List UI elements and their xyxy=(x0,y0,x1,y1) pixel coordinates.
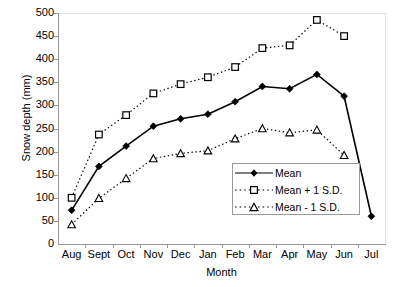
data-point-marker xyxy=(313,126,321,133)
data-point-marker xyxy=(68,195,75,202)
legend-label-mean-minus-sd: Mean - 1 S.D. xyxy=(275,202,340,213)
data-point-marker xyxy=(340,151,348,158)
data-point-marker xyxy=(177,81,184,88)
data-point-marker xyxy=(204,111,211,118)
data-point-marker xyxy=(259,125,267,132)
legend-key-mean xyxy=(233,165,275,181)
legend-item-mean: Mean xyxy=(233,165,359,181)
legend-item-mean-minus-sd: Mean - 1 S.D. xyxy=(233,199,359,215)
data-point-marker xyxy=(259,45,266,52)
data-point-marker xyxy=(177,115,184,122)
data-point-marker xyxy=(205,74,212,81)
data-point-marker xyxy=(286,42,293,49)
data-point-marker xyxy=(368,213,375,220)
legend-key-mean-plus-sd xyxy=(233,182,275,198)
data-point-marker xyxy=(96,131,103,138)
data-point-marker xyxy=(177,150,185,157)
snow-depth-line-chart: Snow depth (mm) Month 050100150200250300… xyxy=(0,0,413,287)
legend-label-mean: Mean xyxy=(275,168,301,179)
data-point-marker xyxy=(95,194,103,201)
legend-label-mean-plus-sd: Mean + 1 S.D. xyxy=(275,185,342,196)
data-point-marker xyxy=(231,135,239,142)
series-layer xyxy=(0,0,413,287)
data-point-marker xyxy=(204,147,212,154)
data-point-marker xyxy=(68,221,76,228)
data-point-marker xyxy=(286,85,293,92)
data-point-marker xyxy=(122,175,130,182)
data-point-marker xyxy=(232,98,239,105)
data-point-marker xyxy=(232,64,239,71)
data-point-marker xyxy=(123,112,130,119)
legend-key-mean-minus-sd xyxy=(233,199,275,215)
chart-legend: Mean Mean + 1 S.D. Mean - 1 S.D. xyxy=(232,163,360,215)
legend-item-mean-plus-sd: Mean + 1 S.D. xyxy=(233,182,359,198)
data-point-marker xyxy=(259,83,266,90)
data-point-marker xyxy=(314,17,321,24)
data-point-marker xyxy=(341,33,348,40)
data-point-marker xyxy=(150,90,157,97)
